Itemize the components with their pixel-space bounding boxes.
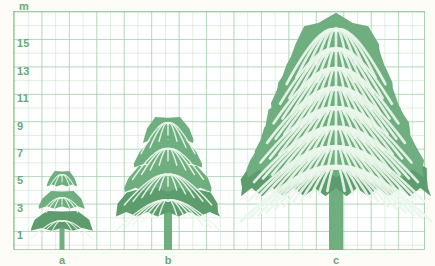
tree-b bbox=[116, 102, 220, 250]
tree-height-chart: m 15131197531 abc bbox=[0, 0, 435, 266]
x-tick-b: b bbox=[165, 255, 172, 266]
tree-trunk bbox=[60, 226, 65, 250]
tree-trunk bbox=[329, 186, 343, 250]
tree-a bbox=[31, 162, 93, 250]
y-tick-9: 9 bbox=[17, 121, 23, 132]
tree-trunk bbox=[164, 210, 172, 250]
x-tick-c: c bbox=[333, 255, 339, 266]
y-tick-7: 7 bbox=[17, 148, 23, 159]
y-tick-1: 1 bbox=[17, 230, 23, 241]
tree-c bbox=[241, 0, 431, 250]
y-tick-15: 15 bbox=[17, 38, 30, 49]
y-axis-unit-label: m bbox=[19, 1, 29, 12]
y-tick-13: 13 bbox=[17, 66, 30, 77]
y-tick-11: 11 bbox=[17, 93, 29, 104]
y-tick-5: 5 bbox=[17, 175, 23, 186]
y-tick-3: 3 bbox=[17, 203, 23, 214]
x-tick-a: a bbox=[59, 255, 65, 266]
